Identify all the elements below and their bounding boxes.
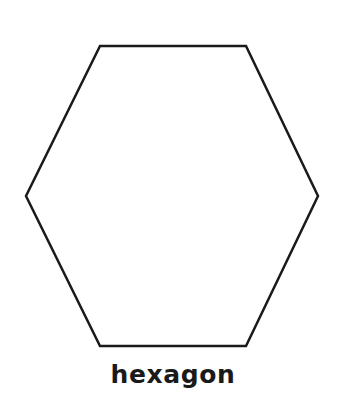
shape-label: hexagon <box>0 360 338 390</box>
shape-diagram: hexagon <box>0 0 338 404</box>
hexagon-shape <box>0 0 338 404</box>
hexagon-outline <box>26 46 318 346</box>
